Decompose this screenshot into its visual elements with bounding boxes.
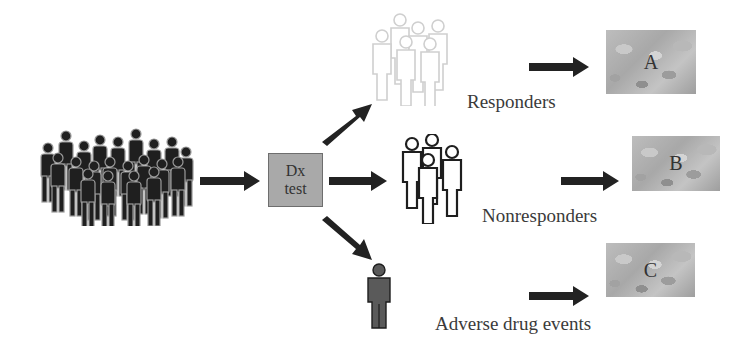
drug-box-a: A <box>606 30 696 94</box>
dx-test-line1: Dx <box>286 162 306 180</box>
drug-label-b: B <box>669 152 682 175</box>
arrow-right-icon <box>529 56 591 78</box>
dx-test-box: Dx test <box>268 153 323 207</box>
label-adverse-drug-events: Adverse drug events <box>435 313 591 335</box>
label-nonresponders: Nonresponders <box>482 205 597 227</box>
crowd-icon <box>36 126 196 226</box>
single-person-icon <box>364 262 394 330</box>
arrow-up-right-icon <box>318 100 376 148</box>
people-group-outline-light-icon <box>366 10 460 106</box>
people-group-outline-icon <box>396 134 466 224</box>
drug-label-c: C <box>644 259 657 282</box>
drug-label-a: A <box>644 51 658 74</box>
arrow-right-icon <box>529 285 591 307</box>
label-responders: Responders <box>467 91 556 113</box>
drug-box-b: B <box>632 136 720 191</box>
drug-box-c: C <box>606 243 695 297</box>
arrow-down-right-icon <box>318 214 376 266</box>
dx-test-line2: test <box>284 180 306 198</box>
arrow-right-icon <box>329 170 391 192</box>
arrow-right-icon <box>561 170 623 192</box>
arrow-right-icon <box>200 170 262 192</box>
